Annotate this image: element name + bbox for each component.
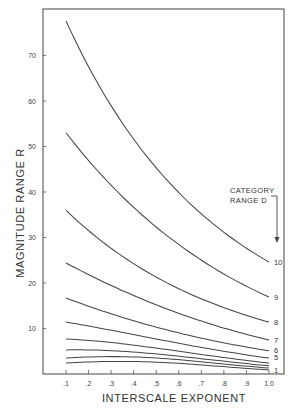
x-tick-label: .5 bbox=[153, 380, 159, 387]
curve-d-7 bbox=[66, 263, 269, 340]
y-axis-label: MAGNITUDE RANGE R bbox=[14, 148, 26, 277]
curve-labels: 10987651 bbox=[274, 258, 282, 375]
curve-d-4 bbox=[66, 339, 269, 363]
curve-label-7: 7 bbox=[274, 336, 278, 345]
y-tick-label: 30 bbox=[28, 234, 36, 241]
x-axis-label: INTERSCALE EXPONENT bbox=[102, 392, 246, 404]
curve-label-10: 10 bbox=[274, 258, 282, 267]
x-tick-label: .3 bbox=[108, 380, 114, 387]
x-tick-label: 1.0 bbox=[264, 380, 274, 387]
y-tick-label: 70 bbox=[28, 52, 36, 59]
curve-d-8 bbox=[66, 210, 269, 322]
y-tick-label: 60 bbox=[28, 98, 36, 105]
y-tick-label: 10 bbox=[28, 325, 36, 332]
x-tick-label: .6 bbox=[176, 380, 182, 387]
curve-label-8: 8 bbox=[274, 318, 278, 327]
legend-title-line1: CATEGORY bbox=[230, 186, 275, 195]
curve-label-5: 5 bbox=[274, 353, 278, 362]
legend-arrow-icon bbox=[271, 196, 280, 243]
curve-d-9 bbox=[66, 133, 269, 297]
x-axis-ticks: .1.2.3.4.5.6.7.8.91.0 bbox=[63, 370, 274, 387]
x-tick-label: .9 bbox=[244, 380, 250, 387]
x-tick-label: .7 bbox=[198, 380, 204, 387]
y-tick-label: 40 bbox=[28, 189, 36, 196]
x-tick-label: .1 bbox=[63, 380, 69, 387]
curve-d-3 bbox=[66, 350, 269, 366]
curve-d-5 bbox=[66, 322, 269, 358]
y-tick-label: 50 bbox=[28, 143, 36, 150]
x-tick-label: .4 bbox=[131, 380, 137, 387]
x-tick-label: .8 bbox=[221, 380, 227, 387]
curve-d-6 bbox=[66, 298, 269, 351]
curve-label-1: 1 bbox=[274, 366, 278, 375]
x-tick-label: .2 bbox=[86, 380, 92, 387]
curve-d-10 bbox=[66, 21, 269, 262]
y-tick-label: 20 bbox=[28, 280, 36, 287]
legend-title-line2: RANGE D bbox=[230, 196, 267, 205]
chart-figure: 10203040506070 .1.2.3.4.5.6.7.8.91.0 109… bbox=[0, 0, 296, 412]
curve-label-9: 9 bbox=[274, 293, 278, 302]
